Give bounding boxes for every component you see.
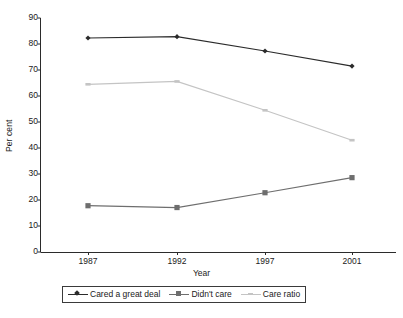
legend-swatch-diamond-icon bbox=[68, 290, 88, 299]
legend-swatch-square-icon bbox=[169, 290, 189, 299]
data-point-1997 bbox=[262, 190, 267, 195]
data-point-1987 bbox=[85, 35, 90, 40]
data-point-1992 bbox=[174, 205, 179, 210]
data-point-2001 bbox=[349, 175, 354, 180]
legend-item-didnt-care[interactable]: Didn't care bbox=[169, 289, 231, 299]
plot-area bbox=[0, 0, 403, 318]
data-point-2001 bbox=[349, 139, 354, 142]
legend-label-care-ratio: Care ratio bbox=[263, 289, 300, 299]
data-point-1997 bbox=[262, 48, 267, 53]
series-line bbox=[88, 37, 352, 66]
data-point-1992 bbox=[174, 80, 179, 83]
line-chart: Per cent 90 80 70 60 50 40 30 20 10 0 19… bbox=[0, 0, 403, 318]
chart-legend: Cared a great deal Didn't care Care rati… bbox=[62, 286, 306, 303]
series-didn-t-care bbox=[85, 175, 354, 210]
series-line bbox=[88, 81, 352, 140]
legend-swatch-dash-icon bbox=[241, 290, 261, 299]
legend-label-cared-a-great-deal: Cared a great deal bbox=[90, 289, 160, 299]
legend-label-didnt-care: Didn't care bbox=[191, 289, 231, 299]
data-point-1997 bbox=[262, 109, 267, 112]
data-point-1987 bbox=[85, 203, 90, 208]
series-line bbox=[88, 178, 352, 208]
series-care-ratio bbox=[85, 80, 354, 141]
series-layer bbox=[85, 34, 354, 210]
series-cared-a-great-deal bbox=[85, 34, 354, 69]
legend-item-care-ratio[interactable]: Care ratio bbox=[241, 289, 300, 299]
legend-item-cared-a-great-deal[interactable]: Cared a great deal bbox=[68, 289, 160, 299]
data-point-1987 bbox=[85, 83, 90, 86]
data-point-2001 bbox=[349, 64, 354, 69]
data-point-1992 bbox=[174, 34, 179, 39]
